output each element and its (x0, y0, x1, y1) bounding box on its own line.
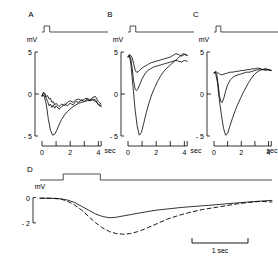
figure-container: A50- 5mV024secB50- 5mV024secC50- 5mV024s… (0, 0, 278, 262)
x-unit-label-C: sec (267, 147, 278, 154)
x-unit-label-A: sec (105, 147, 116, 154)
x-tick-label-B-4: 4 (182, 149, 186, 156)
trace-B-1 (128, 54, 187, 72)
stimulus-trace-B (128, 26, 194, 32)
figure-svg: A50- 5mV024secB50- 5mV024secC50- 5mV024s… (0, 0, 278, 262)
x-tick-label-A-4: 4 (96, 149, 100, 156)
y-tick-label-A-0: 0 (28, 91, 32, 98)
x-tick-label-A-0: 0 (40, 149, 44, 156)
y-axis-D (33, 198, 36, 223)
y-unit-label-C: mV (199, 36, 210, 43)
scale-bar-D (192, 238, 248, 243)
x-tick-label-A-2: 2 (68, 149, 72, 156)
x-unit-label-B: sec (191, 147, 202, 154)
y-tick-label-B-0: 0 (114, 91, 118, 98)
y-tick-label-B-5: 5 (114, 49, 118, 56)
panel-letter-A: A (28, 10, 34, 19)
stimulus-trace-D (40, 174, 272, 180)
stimulus-trace-A (42, 26, 108, 32)
panel-letter-C: C (193, 10, 199, 19)
y-tick-label-C-neg5: - 5 (196, 133, 204, 140)
x-tick-label-B-0: 0 (126, 149, 130, 156)
stimulus-trace-C (214, 26, 278, 32)
y-unit-label-D: mV (35, 183, 46, 190)
y-unit-label-B: mV (113, 36, 124, 43)
x-tick-label-B-2: 2 (154, 149, 158, 156)
y-tick-label-A-5: 5 (28, 49, 32, 56)
y-unit-label-A: mV (27, 36, 38, 43)
y-tick-label-A-neg5: - 5 (24, 133, 32, 140)
trace-D-1 (40, 198, 272, 218)
y-tick-label-B-neg5: - 5 (110, 133, 118, 140)
x-tick-label-C-0: 0 (212, 149, 216, 156)
panel-letter-D: D (27, 165, 33, 174)
y-tick-label-D-neg2: - 2 (22, 220, 30, 227)
x-tick-label-C-2: 2 (239, 149, 243, 156)
trace-C-2 (214, 69, 271, 103)
y-tick-label-C-0: 0 (200, 91, 204, 98)
panel-letter-B: B (107, 10, 112, 19)
y-tick-label-C-5: 5 (200, 49, 204, 56)
trace-D-2 (40, 198, 272, 234)
scale-bar-label-D: 1 sec (212, 247, 229, 254)
y-tick-label-D-0: 0 (26, 195, 30, 202)
